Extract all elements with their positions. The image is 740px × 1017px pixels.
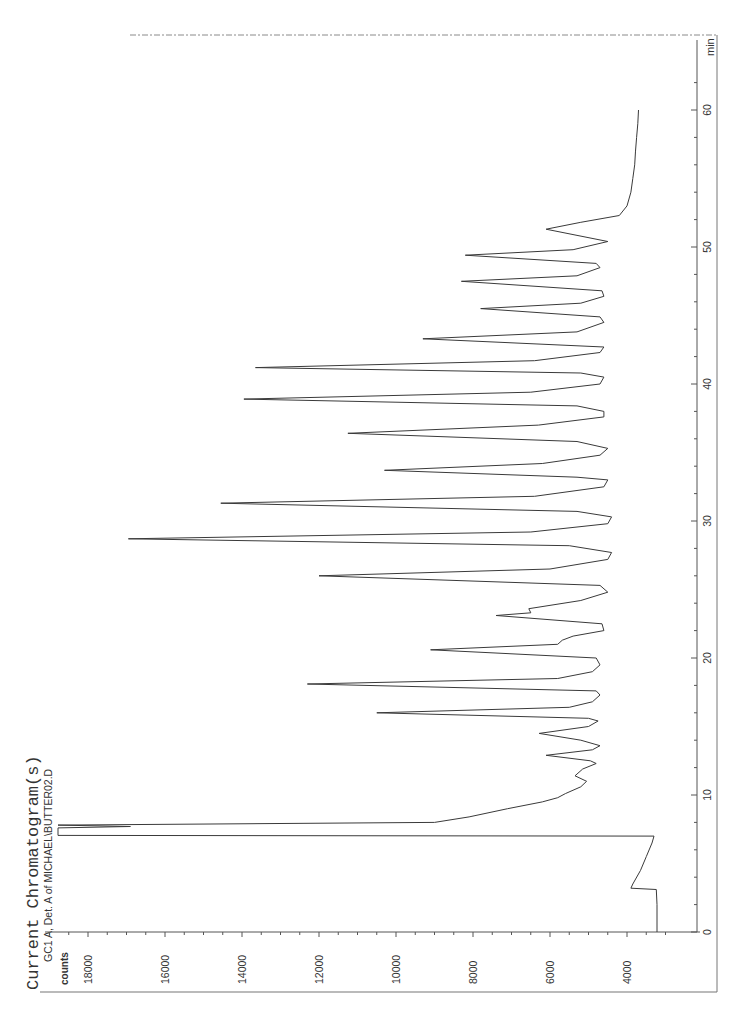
chart-title: Current Chromatogram(s) [24,755,43,990]
time-tick-label: 30 [701,515,713,527]
counts-axis: 4000600080001000012000140001600018000 [45,932,700,984]
title-block: Current Chromatogram(s) GC1 A, Det. A of… [24,755,54,990]
time-tick-label: 40 [701,378,713,390]
time-tick-label: 0 [701,929,713,935]
chromatogram-chart: Current Chromatogram(s) GC1 A, Det. A of… [0,0,740,1017]
time-axis-unit-label: min [704,38,716,56]
counts-tick-label: 18000 [82,955,94,984]
counts-tick-label: 6000 [544,960,556,984]
time-tick-label: 10 [701,789,713,801]
counts-tick-label: 10000 [390,955,402,984]
plot-frame [40,35,717,992]
counts-tick-label: 16000 [159,955,171,984]
time-tick-label: 20 [701,652,713,664]
counts-tick-label: 8000 [467,960,479,984]
time-tick-label: 60 [701,104,713,116]
counts-tick-label: 12000 [313,955,325,984]
chart-subtitle: GC1 A, Det. A of MICHAEL\BUTTER02.D [42,768,54,962]
counts-tick-label: 14000 [236,955,248,984]
counts-axis-label: counts [59,952,70,985]
time-axis: 0102030405060 [691,40,713,935]
chromatogram-trace [58,110,657,932]
counts-tick-label: 4000 [621,960,633,984]
time-tick-label: 50 [701,241,713,253]
